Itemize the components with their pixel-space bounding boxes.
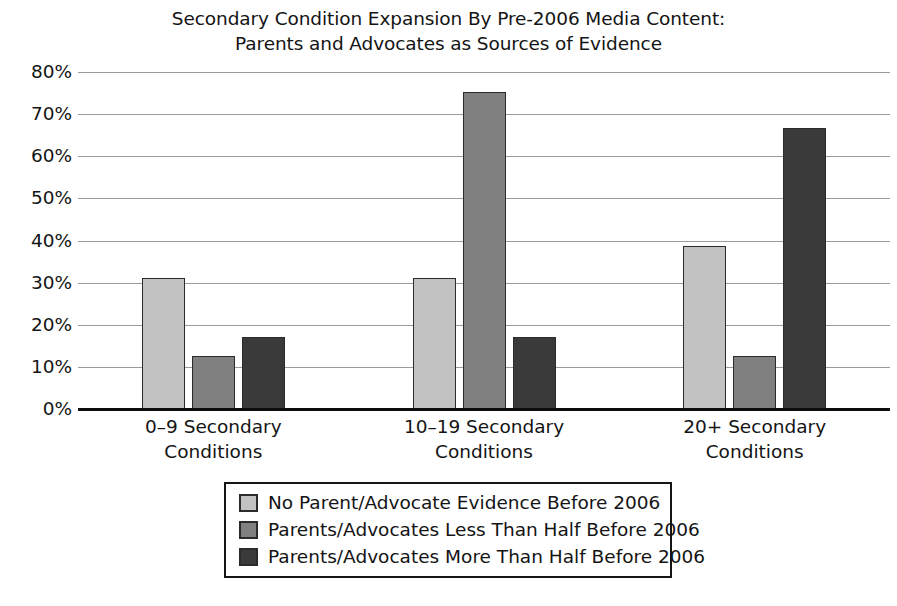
y-axis-tick-label: 50%	[6, 189, 72, 208]
x-axis-category-labels: 0–9 SecondaryConditions10–19 SecondaryCo…	[78, 414, 890, 474]
legend-item-label: No Parent/Advocate Evidence Before 2006	[268, 493, 660, 513]
chart-title-line-2: Parents and Advocates as Sources of Evid…	[0, 31, 897, 56]
bar[interactable]	[413, 278, 456, 409]
legend-item[interactable]: Parents/Advocates Less Than Half Before …	[226, 516, 670, 543]
x-axis-category-label: 0–9 SecondaryConditions	[78, 414, 349, 464]
x-axis-category-label-line: 20+ Secondary	[619, 414, 890, 439]
y-axis-tick-label: 20%	[6, 316, 72, 335]
bar[interactable]	[733, 356, 776, 409]
legend-item-label: Parents/Advocates Less Than Half Before …	[268, 520, 700, 540]
x-axis-category-label: 20+ SecondaryConditions	[619, 414, 890, 464]
chart-title: Secondary Condition Expansion By Pre-200…	[0, 6, 897, 56]
bar[interactable]	[463, 92, 506, 409]
x-axis-category-label-line: Conditions	[78, 439, 349, 464]
chart-legend: No Parent/Advocate Evidence Before 2006P…	[224, 482, 672, 578]
bar-group	[683, 72, 826, 409]
bar[interactable]	[142, 278, 185, 409]
chart-title-line-1: Secondary Condition Expansion By Pre-200…	[0, 6, 897, 31]
bar-chart: Secondary Condition Expansion By Pre-200…	[0, 0, 897, 606]
legend-swatch-icon	[239, 521, 258, 539]
x-axis-category-label-line: 10–19 Secondary	[349, 414, 620, 439]
y-axis-tick-label: 70%	[6, 105, 72, 124]
bar[interactable]	[513, 337, 556, 409]
y-axis-tick-label: 10%	[6, 358, 72, 377]
x-axis-line	[78, 408, 890, 411]
y-axis-tick-label: 0%	[6, 400, 72, 419]
y-axis-tick-label: 80%	[6, 63, 72, 82]
y-axis-tick-label: 40%	[6, 232, 72, 251]
y-axis: 80%70%60%50%40%30%20%10%0%	[0, 72, 72, 409]
x-axis-category-label-line: 0–9 Secondary	[78, 414, 349, 439]
bar-group	[413, 72, 556, 409]
legend-swatch-icon	[239, 494, 258, 512]
bar-group	[142, 72, 285, 409]
legend-swatch-icon	[239, 548, 258, 566]
plot-area	[78, 72, 890, 409]
bar[interactable]	[242, 337, 285, 409]
bar[interactable]	[683, 246, 726, 409]
legend-item[interactable]: No Parent/Advocate Evidence Before 2006	[226, 489, 670, 516]
bar[interactable]	[192, 356, 235, 409]
x-axis-category-label-line: Conditions	[349, 439, 620, 464]
y-axis-tick-label: 30%	[6, 274, 72, 293]
y-axis-tick-label: 60%	[6, 147, 72, 166]
legend-item[interactable]: Parents/Advocates More Than Half Before …	[226, 543, 670, 570]
x-axis-category-label-line: Conditions	[619, 439, 890, 464]
x-axis-category-label: 10–19 SecondaryConditions	[349, 414, 620, 464]
legend-item-label: Parents/Advocates More Than Half Before …	[268, 547, 705, 567]
bar[interactable]	[783, 128, 826, 409]
